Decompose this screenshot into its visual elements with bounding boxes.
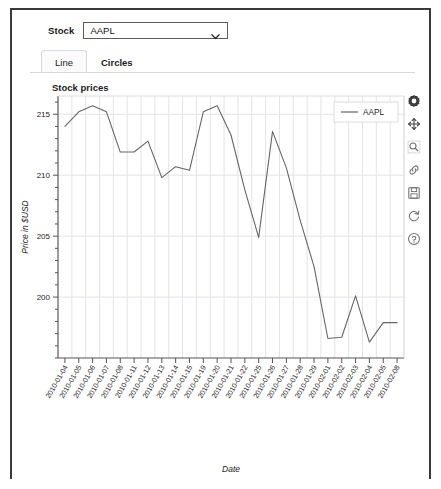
stock-price-line-chart[interactable]: 2002052102152010-01-042010-01-052010-01-… bbox=[12, 74, 429, 479]
stock-select[interactable]: AAPL bbox=[83, 22, 228, 39]
app-window: Stock AAPL Line Circles Stock prices 200… bbox=[10, 8, 431, 479]
chart-panel: Stock prices 2002052102152010-01-042010-… bbox=[12, 74, 429, 479]
x-axis-title: Date bbox=[222, 464, 240, 474]
chart-legend: AAPL bbox=[334, 102, 398, 122]
stock-select-value: AAPL bbox=[84, 25, 114, 36]
zoom-icon[interactable] bbox=[403, 136, 425, 158]
link-icon[interactable] bbox=[403, 159, 425, 181]
y-axis-title: Price in $USD bbox=[20, 200, 30, 253]
help-icon[interactable] bbox=[403, 228, 425, 250]
stock-label: Stock bbox=[48, 25, 74, 36]
y-axis-tick-label: 210 bbox=[37, 171, 51, 180]
y-axis-tick-label: 215 bbox=[37, 110, 51, 119]
tab-line[interactable]: Line bbox=[41, 50, 87, 73]
y-axis-tick-label: 200 bbox=[37, 293, 51, 302]
controls-bar: Stock AAPL Line Circles bbox=[12, 10, 429, 74]
y-axis-tick-label: 205 bbox=[37, 232, 51, 241]
reset-icon[interactable] bbox=[403, 205, 425, 227]
gear-icon[interactable] bbox=[403, 90, 425, 112]
chevron-down-icon bbox=[211, 27, 220, 36]
move-icon[interactable] bbox=[403, 113, 425, 135]
tab-underline bbox=[30, 72, 415, 73]
save-icon[interactable] bbox=[403, 182, 425, 204]
chart-toolbar bbox=[401, 90, 427, 251]
tab-bar: Line Circles bbox=[41, 50, 147, 73]
stock-control-group: Stock AAPL bbox=[48, 22, 228, 39]
tab-circles[interactable]: Circles bbox=[87, 50, 147, 73]
legend-label: AAPL bbox=[363, 108, 384, 117]
